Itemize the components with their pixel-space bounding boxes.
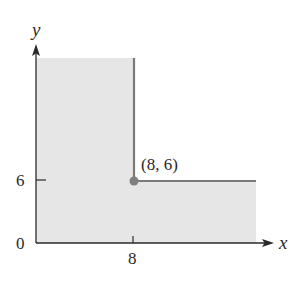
region-diagram: y x 0 6 8 (8, 6): [0, 0, 302, 285]
x-tick-label-8: 8: [128, 249, 137, 268]
origin-label: 0: [16, 234, 25, 253]
shaded-region: [36, 58, 256, 243]
y-tick-label-6: 6: [16, 171, 25, 190]
x-axis-label: x: [278, 232, 288, 253]
point-8-6: [130, 177, 139, 186]
y-axis-label: y: [30, 19, 41, 40]
point-label: (8, 6): [141, 155, 178, 174]
